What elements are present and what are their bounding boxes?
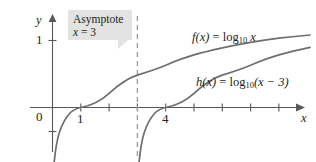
curve-label-h-arg: (x − 3) [254, 75, 289, 89]
curve-label-f: f(x) = log10 x [192, 31, 256, 45]
curve-f-log10x [54, 35, 310, 162]
origin-label: 0 [36, 110, 43, 123]
asymptote-callout-tail [118, 40, 128, 49]
y-tick-label-1: 1 [36, 33, 43, 46]
asymptote-callout-line1: Asymptote [73, 13, 123, 26]
curve-label-h-eq: = log [216, 75, 245, 89]
curve-label-f-eq: = log [209, 30, 238, 44]
curve-label-h-fn: h(x) [196, 75, 216, 89]
logarithm-graph-figure: y x 0 1 4 1 f(x) = log10 x h(x) = log10(… [0, 0, 316, 162]
asymptote-callout-rest: = 3 [78, 26, 96, 38]
curve-label-f-arg: x [247, 30, 256, 44]
curve-label-h: h(x) = log10(x − 3) [196, 76, 289, 90]
x-tick-label-4: 4 [162, 112, 169, 125]
curve-label-f-base: 10 [239, 35, 248, 45]
asymptote-callout-box: Asymptote x = 3 [68, 10, 132, 40]
curve-h-log10x-minus-3 [139, 47, 310, 162]
x-axis-label: x [301, 112, 307, 125]
x-tick-label-1: 1 [77, 112, 84, 125]
asymptote-callout-line2: x = 3 [73, 26, 123, 39]
y-axis-label: y [36, 14, 42, 27]
curve-label-h-base: 10 [245, 80, 254, 90]
asymptote-callout-text: Asymptote x = 3 [73, 13, 123, 39]
y-axis-arrowhead [49, 14, 57, 22]
curve-label-f-fn: f(x) [192, 30, 209, 44]
